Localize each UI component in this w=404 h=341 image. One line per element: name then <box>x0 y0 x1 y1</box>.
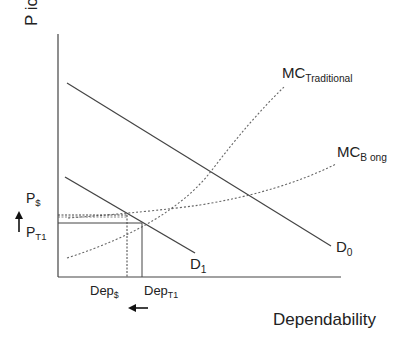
p-dollar-label-sub: $ <box>35 197 40 208</box>
p-t1-label-main: P <box>26 224 35 240</box>
mc-bong-label-sub: B ong <box>360 152 387 163</box>
p-t1-label: PT1 <box>26 224 46 242</box>
mc-traditional-label: MCTraditional <box>282 64 353 84</box>
p-t1-label-sub: T1 <box>35 231 46 242</box>
d0-label: D0 <box>336 238 353 258</box>
mc-traditional-label-main: MC <box>282 64 305 81</box>
dep-t1-label-sub: T1 <box>168 290 178 300</box>
d0-label-main: D <box>336 238 347 255</box>
p-dollar-label: P$ <box>26 190 41 208</box>
dep-dollar-label: Dep$ <box>90 283 119 300</box>
y-axis-label: P ice <box>22 0 42 26</box>
x-axis-label: Dependability <box>273 310 376 330</box>
demand-curve-d0 <box>67 83 331 246</box>
d0-label-sub: 0 <box>347 247 353 258</box>
mc-bong-curve <box>68 164 336 218</box>
mc-bong-label: MCB ong <box>337 143 387 163</box>
mc-traditional-curve <box>67 86 285 258</box>
dep-t1-label-main: Dep <box>144 283 168 298</box>
diagram-canvas <box>0 0 404 341</box>
d1-label-main: D <box>190 255 201 272</box>
d1-label: D1 <box>190 255 207 275</box>
mc-bong-label-main: MC <box>337 143 360 160</box>
price-up-arrow-icon <box>15 211 23 232</box>
mc-traditional-label-sub: Traditional <box>305 73 352 84</box>
dependability-left-arrow-icon <box>128 304 148 312</box>
dep-t1-label: DepT1 <box>144 283 178 300</box>
d1-label-sub: 1 <box>201 264 207 275</box>
dep-dollar-label-main: Dep <box>90 283 114 298</box>
dep-dollar-label-sub: $ <box>114 290 119 300</box>
p-dollar-label-main: P <box>26 190 35 206</box>
